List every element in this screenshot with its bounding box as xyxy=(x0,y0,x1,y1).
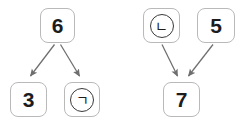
arrow-5-to-7 xyxy=(189,45,214,77)
node-target-circled-giyeok[interactable]: ㄱ xyxy=(64,82,100,117)
node-label: 6 xyxy=(52,15,64,36)
arrow-6-to-3 xyxy=(31,45,55,77)
node-target-3[interactable]: 3 xyxy=(10,82,47,117)
arrow-nieun-to-7 xyxy=(162,45,178,77)
node-target-7[interactable]: 7 xyxy=(163,82,200,117)
node-source-5[interactable]: 5 xyxy=(197,8,235,43)
node-label: 5 xyxy=(210,15,222,36)
node-label: 3 xyxy=(23,89,35,110)
node-label: ㄴ xyxy=(155,19,168,33)
node-source-6[interactable]: 6 xyxy=(40,8,75,43)
node-label: 7 xyxy=(176,89,188,110)
node-source-circled-nieun[interactable]: ㄴ xyxy=(143,8,180,43)
circle-outline-icon: ㄱ xyxy=(70,88,94,112)
circle-outline-icon: ㄴ xyxy=(150,14,174,38)
arrow-6-to-giyeok xyxy=(61,45,80,77)
diagram-canvas: 6 3 ㄱ ㄴ 5 7 xyxy=(0,0,247,121)
node-label: ㄱ xyxy=(76,93,89,107)
